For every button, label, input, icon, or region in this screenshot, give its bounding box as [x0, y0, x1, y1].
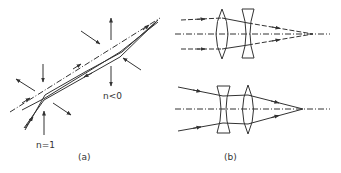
ray-bottom-upper-out-arrow [271, 101, 279, 103]
arrow-out-left [16, 79, 35, 91]
ray-top-lower-out-arrow [272, 40, 280, 41]
panel-b-bottom [175, 85, 330, 134]
arrow-in-right [123, 58, 141, 70]
waveguide-upper-edge [22, 22, 158, 110]
ray-bottom-upper-in-arrow [193, 90, 201, 92]
optics-diagram: n<0 n=1 (a) (b [0, 0, 341, 173]
arrow-out-right-low [53, 103, 71, 115]
ray-top-lower-out [248, 34, 313, 45]
caption-a: (a) [78, 152, 91, 162]
ray-top-upper-out-arrow [272, 27, 280, 28]
arrow-in-top-right [81, 31, 100, 44]
waveguide-lower-edge [25, 20, 158, 130]
ray-bottom-lower-in-arrow [193, 127, 201, 128]
label-n-less-zero: n<0 [103, 91, 122, 101]
panel-b-top [175, 9, 330, 59]
label-n-equals-one: n=1 [36, 140, 55, 150]
ray-top-upper-out [248, 23, 313, 34]
ray-bottom-lower-out-arrow [271, 116, 279, 118]
panel-a [10, 18, 160, 135]
optical-axis-a [10, 18, 160, 112]
ray-arrow-in [25, 117, 33, 128]
caption-b: (b) [224, 152, 237, 162]
